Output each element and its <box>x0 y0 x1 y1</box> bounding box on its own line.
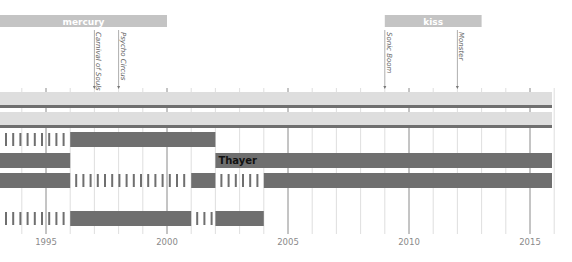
row-segment-dash <box>256 174 258 187</box>
row-segment-dash <box>27 133 29 146</box>
row-segment-dash <box>242 174 244 187</box>
event-label: Carnival of Souls <box>94 32 102 91</box>
row-segment-dash <box>41 133 43 146</box>
row-segment-solid <box>215 211 263 226</box>
row-segment-dash <box>140 174 142 187</box>
row-segment-solid <box>0 153 70 168</box>
row-segment-dash <box>228 174 230 187</box>
timeline-row <box>0 173 552 188</box>
event-markers: Carnival of SoulsPsycho CircusSonic Boom… <box>93 30 466 91</box>
x-tick-label: 2000 <box>156 237 178 247</box>
timeline-rows: Thayer <box>0 92 552 226</box>
row-segment-dash <box>82 174 84 187</box>
row-segment-dash <box>154 174 156 187</box>
x-axis: 19952000200520102015 <box>35 237 541 247</box>
row-segment-dash <box>176 174 178 187</box>
row-segment-dash <box>183 174 185 187</box>
event-arrow-icon <box>117 86 120 89</box>
row-segment-dash <box>75 174 77 187</box>
row-band <box>0 92 552 107</box>
event-label: Psycho Circus <box>119 32 127 81</box>
era-band-label: kiss <box>423 17 443 27</box>
row-segment-dash <box>235 174 237 187</box>
row-segment-dash <box>12 212 14 225</box>
row-base <box>0 105 552 108</box>
event-arrow-icon <box>456 86 459 89</box>
x-tick-label: 2010 <box>398 237 420 247</box>
x-tick-label: 1995 <box>35 237 57 247</box>
row-segment-dash <box>196 212 198 225</box>
row-segment-solid <box>0 173 70 188</box>
row-segment-dash <box>147 174 149 187</box>
row-segment-dash <box>19 133 21 146</box>
era-bands: mercurykiss <box>0 15 482 27</box>
timeline-row <box>5 132 215 147</box>
row-segment-dash <box>203 212 205 225</box>
timeline-row <box>0 112 552 128</box>
row-segment-solid <box>70 211 191 226</box>
row-segment-dash <box>63 212 65 225</box>
timeline-row <box>0 92 552 108</box>
row-segment-dash <box>27 212 29 225</box>
row-segment-dash <box>55 133 57 146</box>
row-segment-dash <box>104 174 106 187</box>
timeline-row <box>5 211 264 226</box>
event-label: Monster <box>457 32 465 61</box>
row-segment-solid <box>215 153 552 168</box>
row-label: Thayer <box>218 155 257 166</box>
row-segment-dash <box>126 174 128 187</box>
row-segment-dash <box>111 174 113 187</box>
row-segment-dash <box>90 174 92 187</box>
row-segment-dash <box>55 212 57 225</box>
row-segment-dash <box>118 174 120 187</box>
row-base <box>0 125 552 128</box>
timeline-chart: mercurykiss Carnival of SoulsPsycho Circ… <box>0 0 572 262</box>
row-segment-solid <box>191 173 215 188</box>
row-segment-dash <box>97 174 99 187</box>
row-segment-dash <box>12 133 14 146</box>
row-segment-dash <box>220 174 222 187</box>
event-arrow-icon <box>383 86 386 89</box>
row-segment-dash <box>5 133 7 146</box>
row-band <box>0 112 552 127</box>
x-tick-label: 2005 <box>277 237 299 247</box>
era-band-label: mercury <box>63 17 105 27</box>
row-segment-dash <box>211 212 213 225</box>
row-segment-dash <box>34 133 36 146</box>
row-segment-dash <box>63 133 65 146</box>
row-segment-solid <box>70 132 215 147</box>
row-segment-dash <box>162 174 164 187</box>
row-segment-dash <box>19 212 21 225</box>
row-segment-dash <box>5 212 7 225</box>
timeline-row: Thayer <box>0 153 552 168</box>
event-label: Sonic Boom <box>385 32 393 74</box>
row-segment-solid <box>264 173 552 188</box>
row-segment-dash <box>48 133 50 146</box>
x-tick-label: 2015 <box>519 237 541 247</box>
row-segment-dash <box>169 174 171 187</box>
row-segment-dash <box>48 212 50 225</box>
row-segment-dash <box>34 212 36 225</box>
row-segment-dash <box>249 174 251 187</box>
row-segment-dash <box>133 174 135 187</box>
row-segment-dash <box>41 212 43 225</box>
